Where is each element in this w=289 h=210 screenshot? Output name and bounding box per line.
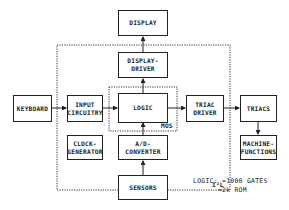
logic-block: LOGIC bbox=[118, 93, 168, 123]
machine-functions-label-2: FUNCTIONS bbox=[241, 148, 276, 156]
triac-driver-label-2: DRIVER bbox=[193, 109, 217, 117]
keyboard-label: KEYBOARD bbox=[17, 105, 48, 113]
sensors-block: SENSORS bbox=[118, 175, 168, 200]
ad-converter-label-2: CONVERTER bbox=[125, 148, 160, 156]
clock-generator-block: CLOCK- GENERATOR bbox=[67, 135, 103, 160]
display-driver-block: DISPLAY- DRIVER bbox=[118, 52, 168, 78]
display-driver-label-1: DISPLAY- bbox=[127, 57, 158, 65]
input-circuitry-label-1: INPUT bbox=[75, 101, 95, 109]
keyboard-block: KEYBOARD bbox=[13, 95, 52, 122]
logic-label: LOGIC bbox=[133, 104, 153, 112]
triacs-block: TRIACS bbox=[240, 95, 277, 122]
mos-region-label: MOS bbox=[161, 122, 173, 129]
triac-driver-block: TRIAC DRIVER bbox=[186, 95, 224, 122]
input-circuitry-label-2: CIRCUITRY bbox=[67, 109, 102, 117]
sensors-label: SENSORS bbox=[129, 184, 156, 192]
display-block: DISPLAY bbox=[118, 10, 168, 36]
clock-generator-label-1: CLOCK- bbox=[73, 140, 97, 148]
machine-functions-block: MACHINE- FUNCTIONS bbox=[240, 135, 277, 160]
machine-functions-label-1: MACHINE- bbox=[243, 140, 274, 148]
display-driver-label-2: DRIVER bbox=[131, 65, 155, 73]
display-label: DISPLAY bbox=[129, 19, 156, 27]
triac-driver-label-1: TRIAC bbox=[195, 101, 215, 109]
ad-converter-block: A/D- CONVERTER bbox=[118, 135, 168, 160]
logic-note-rom: ≈2k ROM bbox=[193, 186, 247, 194]
logic-note-gates: LOGIC: ≈1000 GATES bbox=[193, 177, 268, 185]
clock-generator-label-2: GENERATOR bbox=[67, 148, 102, 156]
ad-converter-label-1: A/D- bbox=[135, 140, 151, 148]
input-circuitry-block: INPUT CIRCUITRY bbox=[67, 95, 103, 122]
triacs-label: TRIACS bbox=[247, 105, 271, 113]
